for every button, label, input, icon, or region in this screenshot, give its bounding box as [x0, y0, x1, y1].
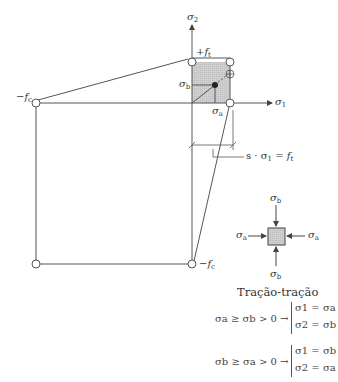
- compression-left-label: −fc: [16, 91, 32, 104]
- stress-element: [268, 228, 285, 245]
- rule-1-result-1: σ1 = σa: [295, 302, 336, 313]
- sigma2-axis-label: σ2: [187, 11, 198, 24]
- element-right-label: σa: [308, 229, 319, 242]
- element-bottom-label: σb: [270, 268, 281, 281]
- tension-region: [192, 62, 230, 103]
- legend-title: Tração-tração: [237, 285, 318, 299]
- sigma1-axis-label: σ1: [275, 96, 286, 109]
- rule-1-result-2: σ2 = σb: [295, 319, 336, 330]
- rule-2-result-1: σ1 = σb: [295, 345, 336, 356]
- failure-envelope-diagram: [0, 0, 338, 382]
- sigma-a-label: σa: [212, 105, 223, 118]
- stress-point: [212, 82, 218, 88]
- rule-2-result-2: σ2 = σa: [295, 362, 336, 373]
- tension-strength-label: +ft: [196, 46, 211, 59]
- dimension-note: s · σ1 = ft: [246, 150, 293, 163]
- rule-2-condition: σb ≥ σa > 0 →: [215, 356, 288, 367]
- rule-1-condition: σa ≥ σb > 0 →: [215, 313, 288, 324]
- sigma-b-label: σb: [179, 78, 190, 91]
- element-left-label: σa: [236, 229, 247, 242]
- element-top-label: σb: [270, 192, 281, 205]
- compression-bottom-label: −fc: [199, 258, 215, 271]
